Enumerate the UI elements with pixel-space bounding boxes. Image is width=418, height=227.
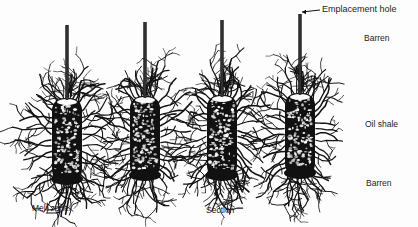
retort-section-drawing bbox=[0, 0, 418, 227]
label-barren-bottom: Barren bbox=[366, 178, 392, 188]
diagram-canvas: Emplacement hole Barren Oil shale Barren… bbox=[0, 0, 418, 227]
label-emplacement-hole: Emplacement hole bbox=[322, 4, 397, 14]
label-oil-shale: Oil shale bbox=[365, 119, 398, 129]
label-barren-top: Barren bbox=[364, 33, 390, 43]
label-melt-zone: Melt zone bbox=[32, 203, 69, 213]
label-section: Section bbox=[206, 205, 234, 215]
retort-4 bbox=[240, 14, 344, 222]
